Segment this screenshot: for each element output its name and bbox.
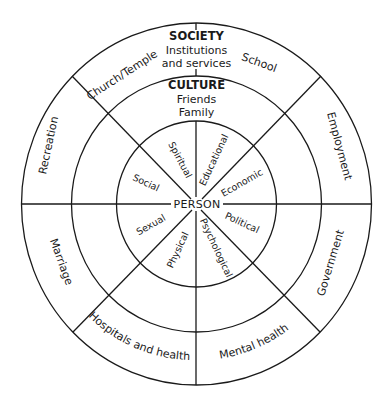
person-culture-society-wheel: SOCIETY Institutions and services Church…: [0, 0, 390, 404]
inner-segment-social: Social: [131, 172, 161, 194]
society-subheading-line-1: Institutions: [166, 44, 228, 57]
inner-segment-physical: Physical: [164, 230, 190, 270]
society-heading: SOCIETY: [169, 29, 224, 43]
inner-segment-educational: Educational: [197, 132, 231, 187]
inner-segment-sexual: Sexual: [134, 212, 167, 237]
culture-line-family: Family: [179, 106, 215, 119]
segment-school: School: [240, 50, 279, 75]
inner-segment-spiritual: Spiritual: [166, 140, 194, 180]
inner-segment-political: Political: [223, 210, 261, 235]
center-person-label: PERSON: [174, 198, 221, 211]
segment-marriage: Marriage: [47, 237, 76, 287]
segment-government: Government: [314, 228, 347, 298]
society-subheading-line-2: and services: [162, 57, 232, 70]
inner-segment-economic: Economic: [219, 166, 264, 199]
culture-line-friends: Friends: [177, 93, 217, 106]
segment-employment: Employment: [324, 111, 355, 182]
culture-heading: CULTURE: [168, 78, 225, 92]
